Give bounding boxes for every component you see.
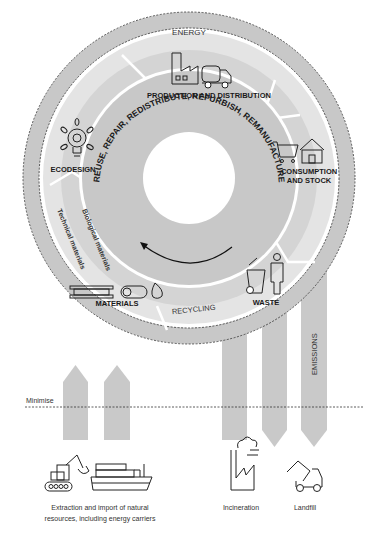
center-hole xyxy=(143,132,235,224)
inputs-label-line1: Extraction and import of natural xyxy=(51,504,149,512)
cargo-ship-icon xyxy=(91,464,152,490)
input-flow-arrow-1 xyxy=(63,365,88,440)
incineration-label: Incineration xyxy=(223,504,259,511)
energy-label: ENERGY xyxy=(172,28,206,37)
input-flow-arrow-2 xyxy=(104,365,130,440)
materials-label: MATERIALS xyxy=(95,299,138,308)
waste-label: WASTE xyxy=(253,298,280,307)
excavator-icon xyxy=(45,455,89,491)
minimise-label: Minimise xyxy=(26,397,54,404)
circular-economy-diagram: REUSE, REPAIR, REDISTRIBUTE, REFURBISH, … xyxy=(0,0,379,538)
inputs-label-line2: resources, including energy carriers xyxy=(45,515,156,523)
incinerator-icon xyxy=(231,437,259,490)
dump-truck-icon xyxy=(287,461,322,492)
consumption-label-line1: CONSUMPTION xyxy=(281,167,337,176)
input-arrows xyxy=(63,365,130,440)
consumption-label-line2: AND STOCK xyxy=(287,176,332,185)
emissions-label: EMISSIONS xyxy=(310,333,319,375)
landfill-label: Landfill xyxy=(294,504,317,511)
ecodesign-label: ECODESIGN xyxy=(50,165,95,174)
production-label: PRODUCTION AND DISTRIBUTION xyxy=(147,91,271,100)
